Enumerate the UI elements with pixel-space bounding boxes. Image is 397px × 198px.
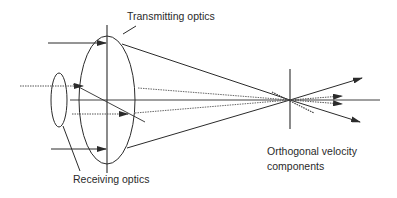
transmitting-optics-label: Transmitting optics [127, 9, 215, 23]
velocity-label-line1: Orthogonal velocity [267, 144, 357, 158]
receiving-optics-label: Receiving optics [73, 172, 149, 186]
velocity-arrow-up [290, 78, 362, 100]
optics-diagram [0, 0, 397, 198]
focal-dotted-oblique [272, 92, 314, 113]
converging-dotted-upper [138, 88, 290, 100]
receiving-lens [51, 73, 67, 127]
transmitting-leader-line [123, 26, 136, 34]
velocity-label-line2: components [267, 159, 324, 173]
converging-beam-top [122, 44, 290, 100]
velocity-arrow-down [290, 100, 360, 122]
